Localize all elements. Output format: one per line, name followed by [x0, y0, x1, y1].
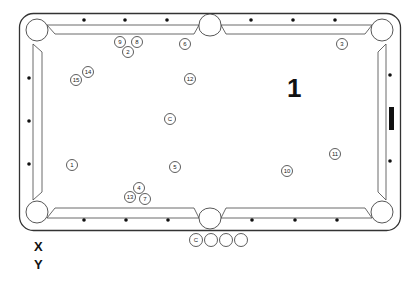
pocket-bottom-right: [371, 201, 393, 223]
x-axis-label: X: [34, 240, 43, 253]
object-ball-13: 13: [125, 192, 136, 203]
svg-text:11: 11: [332, 151, 339, 157]
ball-legend: C: [190, 234, 248, 247]
pocket-top-right: [371, 19, 393, 41]
diamond-icon: [165, 18, 169, 22]
y-axis-label: Y: [34, 258, 43, 271]
diamond-icon: [123, 18, 127, 22]
diamond-icon: [333, 18, 337, 22]
pool-table-diagram: 98263141512C1511104137 C: [0, 0, 420, 281]
object-ball-15: 15: [71, 75, 82, 86]
legend-empty-ball: [220, 234, 233, 247]
object-ball-6: 6: [180, 39, 191, 50]
legend-cue-ball: C: [190, 234, 203, 247]
head-string-marker: [389, 107, 394, 130]
object-ball-2: 2: [123, 47, 134, 58]
diamond-icon: [291, 18, 295, 22]
object-ball-7: 7: [140, 194, 151, 205]
diamond-icon: [388, 73, 392, 77]
svg-text:14: 14: [85, 69, 92, 75]
svg-text:10: 10: [284, 168, 291, 174]
pocket-top-left: [26, 19, 48, 41]
diamond-icon: [27, 76, 31, 80]
object-ball-1: 1: [67, 160, 78, 171]
legend-empty-ball: [235, 234, 248, 247]
diamond-icon: [293, 218, 297, 222]
diamond-icon: [250, 218, 254, 222]
ball-layer: 98263141512C1511104137: [67, 37, 348, 205]
object-ball-11: 11: [330, 149, 341, 160]
object-ball-10: 10: [282, 166, 293, 177]
object-ball-4: 4: [134, 183, 145, 194]
svg-text:12: 12: [187, 76, 194, 82]
pocket-top-middle: [199, 14, 221, 36]
cushions: [33, 25, 386, 218]
pocket-bottom-left: [26, 201, 48, 223]
object-ball-12: 12: [185, 74, 196, 85]
svg-text:C: C: [168, 116, 173, 122]
rail-diamonds: [27, 18, 392, 222]
object-ball-8: 8: [132, 37, 143, 48]
diamond-icon: [27, 119, 31, 123]
diamond-icon: [166, 218, 170, 222]
diamond-icon: [335, 218, 339, 222]
diamond-icon: [27, 162, 31, 166]
pocket-bottom-middle: [199, 208, 221, 229]
diamond-icon: [82, 18, 86, 22]
diamond-icon: [82, 218, 86, 222]
legend-empty-ball: [205, 234, 218, 247]
cue-ball: C: [165, 114, 176, 125]
diamond-icon: [249, 18, 253, 22]
svg-text:C: C: [194, 237, 199, 243]
object-ball-14: 14: [83, 67, 94, 78]
shot-number: 1: [287, 75, 301, 101]
object-ball-5: 5: [170, 162, 181, 173]
object-ball-9: 9: [115, 37, 126, 48]
object-ball-3: 3: [337, 39, 348, 50]
svg-text:15: 15: [73, 77, 80, 83]
diamond-icon: [388, 159, 392, 163]
diamond-icon: [124, 218, 128, 222]
svg-text:13: 13: [127, 194, 134, 200]
